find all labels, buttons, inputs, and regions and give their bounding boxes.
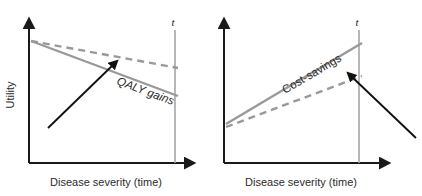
- annotation-arrow: [351, 76, 416, 138]
- time-marker-label: t: [355, 16, 359, 28]
- annotation-arrow: [48, 64, 114, 128]
- cost-savings-label: Cost-savings: [280, 52, 344, 96]
- utility-panel: t QALY gains Utility Disease severity (t…: [0, 0, 211, 196]
- time-marker-label: t: [171, 16, 175, 28]
- y-axis-label: Utility: [4, 81, 16, 108]
- x-axis-label: Disease severity (time): [245, 176, 357, 188]
- figure-canvas: t QALY gains Utility Disease severity (t…: [0, 0, 422, 196]
- intervention-curve-dashed: [31, 41, 178, 68]
- cost-panel: t Cost-savings Cost Disease severity (ti…: [211, 0, 422, 196]
- y-axis-label: Cost: [211, 84, 212, 107]
- x-axis-label: Disease severity (time): [50, 176, 162, 188]
